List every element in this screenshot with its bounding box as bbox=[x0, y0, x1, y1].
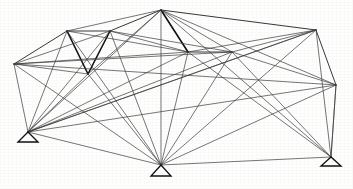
truss-diagram bbox=[0, 0, 353, 189]
figure-container bbox=[0, 0, 353, 189]
